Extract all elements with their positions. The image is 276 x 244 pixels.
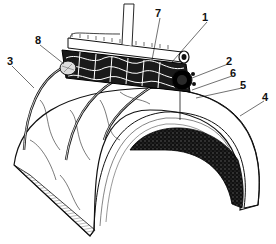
label-1: 1 [202, 12, 208, 23]
label-4: 4 [262, 92, 268, 103]
anatomical-figure: 1 2 3 4 5 6 7 8 [0, 0, 276, 244]
label-3: 3 [7, 56, 13, 67]
label-7: 7 [155, 8, 161, 19]
label-8: 8 [35, 35, 41, 46]
intestinal-wall [14, 88, 259, 236]
label-5: 5 [240, 80, 246, 91]
label-2: 2 [226, 56, 232, 67]
intestine-illustration [0, 0, 276, 244]
label-6: 6 [230, 68, 236, 79]
